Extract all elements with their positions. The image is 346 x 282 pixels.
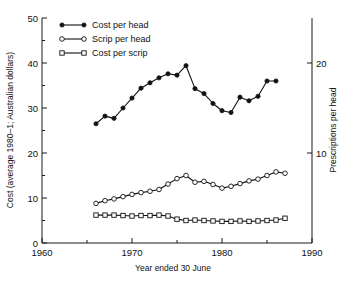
y-axis-right-ticks [307,63,312,153]
legend-marker [60,51,64,55]
data-point [148,189,153,194]
data-point [94,213,98,217]
data-point [121,213,125,217]
data-point [148,213,152,217]
legend-label: Cost per scrip [92,48,148,58]
data-point [247,179,252,184]
data-point [211,101,215,105]
data-point [283,171,288,176]
legend-marker [60,37,65,42]
data-point [202,92,206,96]
data-point [265,218,269,222]
y-axis-right-tick-label: 20 [316,58,327,69]
data-point [202,218,206,222]
legend-item-1: Scrip per head [60,34,151,44]
x-axis-tick-label: 1980 [211,247,232,258]
x-axis-tick-label: 1990 [301,247,322,258]
data-point [256,94,260,98]
data-point [130,214,134,218]
data-point [157,76,161,80]
data-point [247,99,251,103]
data-point [112,116,116,120]
data-point [283,216,287,220]
data-point [220,109,224,113]
data-point [193,87,197,91]
y-axis-tick-label: 20 [27,148,38,159]
legend-label: Cost per head [92,20,149,30]
legend-marker [82,51,86,55]
data-point [265,173,270,178]
legend-item-2: Cost per scrip [60,48,148,58]
data-point [184,173,189,178]
y-axis-tick-label: 40 [27,58,38,69]
data-point [112,213,116,217]
y-axis-left-tick-labels: 01020304050 [27,13,38,249]
data-point [103,198,108,203]
data-point [103,114,107,118]
data-point [247,219,251,223]
data-point [121,106,125,110]
series-line [96,66,276,124]
data-point [139,86,143,90]
data-point [193,218,197,222]
data-point [220,186,225,191]
data-point [220,219,224,223]
x-axis-tick-labels: 1960197019801990 [31,247,322,258]
data-point [229,110,233,114]
legend-item-0: Cost per head [60,20,149,30]
data-point [94,201,99,206]
line-chart-svg: 1960197019801990 01020304050 1020 Year e… [0,0,346,282]
data-point [193,180,198,185]
y-axis-left-title: Cost (average 1980–1; Australian dollars… [5,52,15,209]
data-point [166,182,171,187]
legend-marker [82,37,87,42]
series-cost-per-head [94,64,278,126]
data-point [238,95,242,99]
data-point [274,79,278,83]
data-point [211,182,216,187]
data-point [103,213,107,217]
data-point [238,219,242,223]
y-axis-tick-label: 0 [33,238,38,249]
x-axis-title: Year ended 30 June [135,263,211,273]
data-point [265,79,269,83]
data-point [130,96,134,100]
y-axis-left-ticks [42,18,47,243]
y-axis-tick-label: 30 [27,103,38,114]
data-point [175,176,180,181]
data-point [166,72,170,76]
x-axis-tick-label: 1960 [31,247,52,258]
y-axis-right-tick-labels: 1020 [316,58,327,159]
series-cost-per-scrip [94,213,287,224]
data-point [256,177,261,182]
chart-figure: 1960197019801990 01020304050 1020 Year e… [0,0,346,282]
data-point [229,219,233,223]
data-point [130,192,135,197]
data-point [274,170,279,175]
data-point [175,73,179,77]
series-scrip-per-head [94,170,288,206]
chart-legend: Cost per headScrip per headCost per scri… [60,20,151,58]
data-point [139,190,144,195]
data-point [157,187,162,192]
data-point [157,213,161,217]
data-point [238,181,243,186]
data-point [229,184,234,189]
data-point [184,218,188,222]
x-axis-tick-label: 1970 [121,247,142,258]
legend-label: Scrip per head [92,34,151,44]
data-point [112,197,117,202]
legend-marker [82,23,86,27]
data-point [274,218,278,222]
x-axis-ticks [42,238,312,243]
data-point [184,64,188,68]
data-point [256,219,260,223]
chart-series-group [94,64,288,224]
data-point [175,217,179,221]
data-point [94,122,98,126]
y-axis-right-title: Prescriptions per head [328,87,338,172]
data-point [121,194,126,199]
y-axis-right-tick-label: 10 [316,148,327,159]
data-point [211,219,215,223]
y-axis-tick-label: 50 [27,13,38,24]
